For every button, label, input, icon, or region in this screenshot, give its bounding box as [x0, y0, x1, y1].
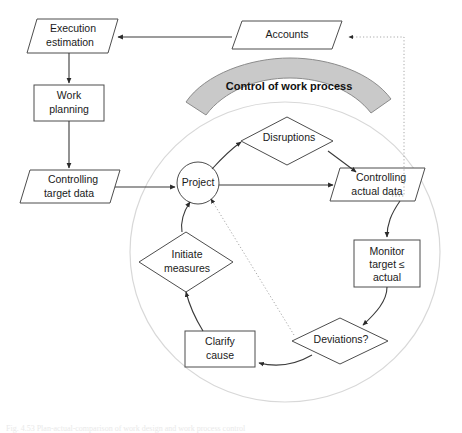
controlling-target-data-label-line2: target data: [44, 187, 94, 199]
figure-caption: Fig. 4.53 Plan-actual-comparison of work…: [6, 424, 456, 433]
node-monitor-target-actual: Monitor target ≤ actual: [354, 240, 420, 287]
node-controlling-actual-data: Controlling actual data: [330, 168, 425, 201]
connector-actual-data-to-monitor: [387, 201, 400, 237]
flowchart-diagram: Control of work process Execution estima…: [0, 0, 462, 433]
controlling-actual-data-label-line2: actual data: [351, 185, 403, 197]
project-label: Project: [182, 176, 215, 188]
work-planning-label-line1: Work: [57, 89, 82, 101]
node-initiate-measures: Initiate measures: [139, 232, 233, 292]
execution-estimation-label-line1: Execution: [50, 22, 96, 34]
figure-container: Control of work process Execution estima…: [0, 0, 462, 433]
clarify-cause-label-line2: cause: [206, 349, 234, 361]
controlling-actual-data-label-line1: Controlling: [356, 171, 406, 183]
disruptions-label: Disruptions: [263, 131, 316, 143]
work-planning-label-line2: planning: [49, 103, 89, 115]
node-accounts: Accounts: [232, 21, 342, 49]
node-work-planning: Work planning: [34, 85, 104, 121]
initiate-measures-label-line2: measures: [164, 262, 210, 274]
deviations-label: Deviations?: [314, 333, 369, 345]
node-disruptions: Disruptions: [241, 117, 333, 165]
monitor-label-line2: target ≤: [369, 258, 405, 270]
initiate-measures-label-line1: Initiate: [172, 248, 203, 260]
connector-initiate-measures-to-project: [181, 202, 190, 232]
connector-project-to-disruptions: [212, 142, 241, 169]
connector-clarify-cause-to-initiate-measures: [186, 292, 203, 331]
execution-estimation-label-line2: estimation: [46, 36, 94, 48]
connector-monitor-to-deviations: [363, 287, 387, 325]
node-controlling-target-data: Controlling target data: [20, 170, 120, 203]
node-deviations: Deviations?: [292, 318, 388, 364]
controlling-target-data-label-line1: Controlling: [48, 173, 98, 185]
clarify-cause-label-line1: Clarify: [205, 335, 236, 347]
monitor-label-line1: Monitor: [369, 245, 405, 257]
banner-label: Control of work process: [226, 80, 353, 92]
monitor-label-line3: actual: [373, 271, 401, 283]
connector-deviations-to-clarify-cause: [259, 355, 312, 365]
node-execution-estimation: Execution estimation: [27, 19, 118, 53]
accounts-label: Accounts: [265, 28, 308, 40]
node-clarify-cause: Clarify cause: [185, 331, 255, 367]
